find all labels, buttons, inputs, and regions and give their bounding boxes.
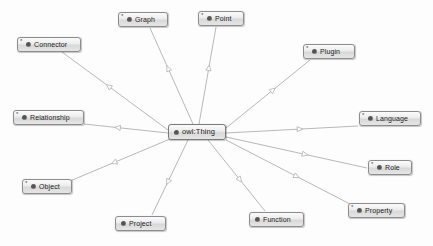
class-circle-icon xyxy=(255,217,260,222)
generalization-arrowhead-icon xyxy=(167,178,172,184)
asterisk-marker-icon: * xyxy=(20,38,22,44)
generalization-arrowhead-icon xyxy=(115,125,121,130)
class-circle-icon xyxy=(207,16,212,21)
generalization-line xyxy=(152,140,188,215)
asterisk-marker-icon: * xyxy=(25,180,27,186)
edge-language xyxy=(226,126,358,133)
generalization-arrowhead-icon xyxy=(269,88,275,93)
generalization-arrowhead-icon xyxy=(236,176,241,182)
generalization-line xyxy=(70,139,170,181)
generalization-arrowhead-icon xyxy=(302,151,308,156)
diagram-canvas[interactable]: *Graph*Point*Connector*Plugin*Relationsh… xyxy=(0,0,433,246)
edge-function xyxy=(208,140,265,211)
generalization-line xyxy=(226,137,367,168)
class-circle-icon xyxy=(127,17,132,22)
class-circle-icon xyxy=(22,115,27,120)
class-node-label: Object xyxy=(39,183,60,191)
class-node-point[interactable]: *Point xyxy=(198,11,244,26)
edge-relationship xyxy=(84,124,168,133)
class-circle-icon xyxy=(121,221,126,226)
generalization-line xyxy=(226,126,358,133)
class-node-label: Role xyxy=(385,164,400,172)
class-node-plugin[interactable]: *Plugin xyxy=(303,44,355,59)
class-node-label: owl:Thing xyxy=(182,128,215,136)
class-node-language[interactable]: *Language xyxy=(359,111,421,126)
asterisk-marker-icon: * xyxy=(201,12,203,18)
class-node-label: Relationship xyxy=(30,114,70,122)
edge-project xyxy=(152,140,188,215)
generalization-line xyxy=(226,60,310,128)
asterisk-marker-icon: * xyxy=(16,111,18,117)
generalization-line xyxy=(226,140,352,205)
edge-role xyxy=(226,137,367,168)
edge-plugin xyxy=(226,60,310,128)
generalization-arrowhead-icon xyxy=(106,85,112,90)
generalization-line xyxy=(84,124,168,133)
edge-object xyxy=(70,139,170,181)
edge-point xyxy=(199,27,216,124)
class-circle-icon xyxy=(174,130,179,135)
edge-property xyxy=(226,140,352,205)
class-circle-icon xyxy=(31,184,36,189)
class-node-label: Project xyxy=(129,220,152,228)
class-node-relationship[interactable]: *Relationship xyxy=(13,110,84,125)
class-node-root[interactable]: owl:Thing xyxy=(168,124,226,140)
asterisk-marker-icon: * xyxy=(121,13,123,19)
class-circle-icon xyxy=(357,208,362,213)
class-node-label: Connector xyxy=(34,41,67,49)
class-node-project[interactable]: Project xyxy=(115,216,166,231)
class-node-graph[interactable]: *Graph xyxy=(118,12,168,27)
class-node-label: Point xyxy=(215,15,231,23)
class-circle-icon xyxy=(377,165,382,170)
class-node-label: Function xyxy=(263,216,291,224)
class-circle-icon xyxy=(368,116,373,121)
generalization-arrowhead-icon xyxy=(293,173,299,178)
generalization-line xyxy=(199,27,216,124)
generalization-arrowhead-icon xyxy=(297,127,303,132)
class-node-object[interactable]: *Object xyxy=(22,179,72,194)
edge-graph xyxy=(150,28,193,124)
class-node-label: Graph xyxy=(135,16,155,24)
generalization-arrowhead-icon xyxy=(111,159,117,164)
class-node-label: Property xyxy=(365,207,392,215)
class-circle-icon xyxy=(26,42,31,47)
class-node-connector[interactable]: *Connector xyxy=(17,37,81,52)
class-node-role[interactable]: *Role xyxy=(368,160,412,175)
asterisk-marker-icon: * xyxy=(306,45,308,51)
class-node-property[interactable]: *Property xyxy=(348,203,405,218)
generalization-line xyxy=(208,140,265,211)
class-node-function[interactable]: Function xyxy=(249,212,304,227)
class-circle-icon xyxy=(312,49,317,54)
generalization-arrowhead-icon xyxy=(167,66,172,72)
class-node-label: Language xyxy=(376,115,408,123)
asterisk-marker-icon: * xyxy=(362,112,364,118)
generalization-arrowhead-icon xyxy=(206,65,211,71)
asterisk-marker-icon: * xyxy=(351,204,353,210)
asterisk-marker-icon: * xyxy=(371,161,373,167)
class-node-label: Plugin xyxy=(320,48,340,56)
generalization-line xyxy=(150,28,193,124)
